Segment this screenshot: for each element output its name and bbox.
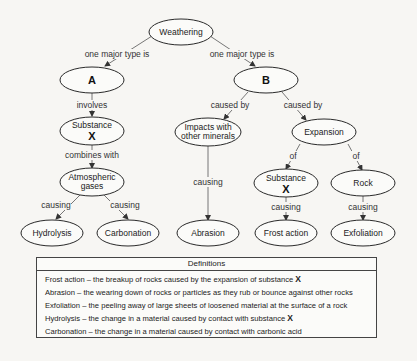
definition-text: – the change in a material caused by con…: [80, 314, 287, 323]
definition-text: – the change in a material caused by con…: [86, 327, 301, 336]
edge-label-combines-with: combines with: [65, 150, 119, 160]
node-atmospheric-gases: Atmospheric gases: [60, 168, 124, 196]
edge-label-causing-hydrolysis: causing: [41, 200, 71, 210]
definition-frost-action: Frost action – the breakup of rocks caus…: [45, 273, 376, 286]
node-carbonation: Carbonation: [97, 220, 159, 246]
definition-text: – the peeling away of large sheets of lo…: [80, 301, 347, 310]
node-abrasion: Abrasion: [177, 220, 239, 246]
node-a: A: [60, 67, 124, 93]
node-weathering: Weathering: [149, 19, 213, 45]
node-label-abrasion: Abrasion: [191, 228, 225, 238]
edge-label-causing-exfoliation: causing: [348, 202, 378, 212]
node-label-b: B: [262, 74, 270, 86]
node-symbol-x-left: X: [88, 130, 96, 142]
node-label-frost-action: Frost action: [264, 228, 309, 238]
definitions-list: Frost action – the breakup of rocks caus…: [37, 271, 376, 338]
edge-label-caused-by-impacts: caused by: [211, 100, 250, 110]
definitions-box: Definitions Frost action – the breakup o…: [36, 257, 377, 338]
definition-symbol-x: X: [295, 274, 301, 284]
node-rock: Rock: [331, 170, 395, 196]
node-impacts: Impacts with other minerals: [175, 118, 241, 146]
node-label-substance-right: Substance: [266, 173, 306, 183]
node-label-expansion: Expansion: [304, 127, 344, 137]
definition-hydrolysis: Hydrolysis – the change in a material ca…: [45, 312, 376, 325]
definition-text: – the breakup of rocks caused by the exp…: [85, 275, 296, 284]
edge-label-caused-by-expansion: caused by: [284, 100, 323, 110]
node-label-weathering: Weathering: [159, 27, 203, 37]
edge-label-causing-carbonation: causing: [110, 200, 140, 210]
node-symbol-x-right: X: [282, 183, 290, 195]
node-label-gases: gases: [81, 181, 104, 191]
node-expansion: Expansion: [292, 119, 356, 145]
definition-abrasion: Abrasion – the wearing down of rocks or …: [45, 286, 376, 299]
edge-label-weathering-a: one major type is: [85, 49, 150, 59]
definition-text: – the wearing down of rocks or particles…: [75, 288, 353, 297]
node-label-rock: Rock: [353, 178, 373, 188]
definition-term: Hydrolysis: [45, 314, 80, 323]
definitions-title: Definitions: [37, 258, 376, 271]
edge-label-involves: involves: [77, 100, 108, 110]
definition-term: Abrasion: [45, 288, 75, 297]
node-label-a: A: [88, 74, 96, 86]
edge-label-causing-abrasion: causing: [193, 177, 223, 187]
node-hydrolysis: Hydrolysis: [21, 220, 83, 246]
definition-term: Frost action: [45, 275, 85, 284]
node-substance-x-left: Substance X: [60, 117, 124, 145]
edge-label-causing-frost: causing: [271, 202, 301, 212]
definition-exfoliation: Exfoliation – the peeling away of large …: [45, 299, 376, 312]
node-label-exfoliation: Exfoliation: [343, 228, 382, 238]
node-label-substance-left: Substance: [72, 120, 112, 130]
definition-symbol-x: X: [287, 313, 293, 323]
definition-term: Carbonation: [45, 327, 86, 336]
definition-term: Exfoliation: [45, 301, 80, 310]
node-exfoliation: Exfoliation: [331, 220, 395, 246]
node-label-hydrolysis: Hydrolysis: [32, 228, 71, 238]
node-substance-x-right: Substance X: [254, 169, 318, 197]
node-frost-action: Frost action: [255, 220, 317, 246]
definition-carbonation: Carbonation – the change in a material c…: [45, 325, 376, 338]
node-b: B: [234, 67, 298, 93]
edge-label-of-rock: of: [352, 151, 360, 161]
edge-label-of-substance: of: [289, 151, 297, 161]
edge-label-weathering-b: one major type is: [210, 49, 275, 59]
node-label-carbonation: Carbonation: [105, 228, 152, 238]
node-label-other-minerals: other minerals: [181, 131, 235, 141]
